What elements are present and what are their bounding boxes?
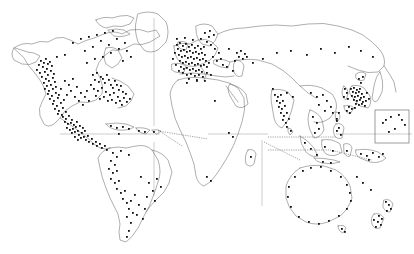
tropic-dashed-line-d [264, 142, 300, 160]
gridlines-group [60, 18, 412, 206]
coastline-mexico-central [60, 118, 110, 149]
coastline-south-america [98, 146, 160, 243]
coastline-java [314, 158, 340, 164]
coastline-canadian-arctic [96, 15, 134, 28]
tropic-dashed-line-a [158, 131, 208, 139]
map-canvas [0, 0, 414, 254]
coastline-south-america-east-bulge [146, 150, 172, 212]
coastline-africa [170, 77, 245, 186]
coastline-arabia [228, 84, 248, 108]
coastline-australia [286, 165, 352, 224]
coastline-north-america [14, 29, 160, 126]
coastline-central-asia [230, 59, 316, 98]
coastline-siberia-east [384, 66, 396, 92]
tropic-dashed-line-f [158, 130, 182, 146]
coastline-japan [356, 72, 366, 81]
world-distribution-map [0, 0, 414, 254]
coastline-indochina [308, 110, 324, 138]
coastline-kamchatka [372, 72, 383, 102]
coastline-new-guinea [356, 149, 387, 162]
coastline-greenland [135, 12, 168, 52]
coastline-sumatra [300, 136, 318, 157]
inset-frame [375, 110, 409, 143]
coastline-caspian [233, 60, 244, 77]
coastline-philippines [333, 124, 344, 139]
coastline-asia-north [218, 23, 385, 72]
